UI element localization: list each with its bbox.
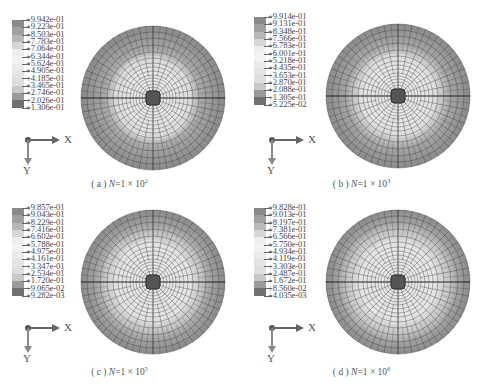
legend-tick <box>22 42 30 43</box>
legend-swatch <box>254 230 266 237</box>
contour-plot <box>318 16 478 176</box>
legend-swatch <box>12 208 24 215</box>
legend-tick <box>22 237 30 238</box>
legend-tick <box>264 46 272 47</box>
legend-tick <box>264 281 272 282</box>
legend-swatch <box>12 56 24 63</box>
legend-tick <box>264 274 272 275</box>
x-axis-label: X <box>308 321 316 333</box>
legend-tick <box>22 100 30 101</box>
legend-tick <box>22 108 30 109</box>
legend-tick <box>264 215 272 216</box>
legend-swatch <box>12 27 24 34</box>
legend-tick <box>264 24 272 25</box>
legend-tick <box>264 296 272 297</box>
legend-swatch <box>12 230 24 237</box>
legend-swatch <box>254 215 266 222</box>
legend-swatch <box>254 17 266 24</box>
legend-tick <box>264 61 272 62</box>
panel-b: +9.914e-01+9.131e-01+8.348e-01+7.566e-01… <box>242 0 478 193</box>
legend-swatch <box>254 24 266 31</box>
axis-triad: XY <box>266 322 316 362</box>
legend-swatch <box>254 288 266 295</box>
contour-plot <box>73 202 233 362</box>
axis-triad: XY <box>266 134 316 174</box>
y-axis-label: Y <box>267 164 275 176</box>
legend-swatch <box>254 259 266 266</box>
legend-tick <box>264 259 272 260</box>
legend-tick <box>22 252 30 253</box>
legend-swatch <box>12 266 24 273</box>
legend-tick <box>264 230 272 231</box>
legend-tick <box>22 93 30 94</box>
legend-swatch <box>254 39 266 46</box>
legend-swatch <box>12 281 24 288</box>
legend-swatch <box>254 208 266 215</box>
legend-labels: +9.942e-01+9.223e-01+8.503e-01+7.783e-01… <box>26 16 64 111</box>
legend-tick <box>22 78 30 79</box>
contour-plot <box>73 18 233 178</box>
axis-triad: XY <box>22 134 72 174</box>
legend-swatch <box>12 49 24 56</box>
legend-tick <box>264 223 272 224</box>
legend-tick <box>264 68 272 69</box>
legend-swatch <box>12 244 24 251</box>
legend-tick <box>22 27 30 28</box>
legend-tick <box>264 75 272 76</box>
legend-tick <box>22 64 30 65</box>
legend-tick <box>264 266 272 267</box>
x-axis-label: X <box>64 321 72 333</box>
panel-caption: ( b ) N=1 × 103 <box>242 178 478 189</box>
legend-tick <box>22 86 30 87</box>
legend-swatch <box>12 64 24 71</box>
panel-caption: ( a ) N=1 × 102 <box>0 178 239 189</box>
panel-caption: ( c ) N=1 × 105 <box>0 366 239 377</box>
legend-swatch <box>254 266 266 273</box>
y-axis-label: Y <box>267 352 275 364</box>
legend-value: +9.282e-03 <box>26 292 64 299</box>
y-axis-label: Y <box>23 164 31 176</box>
legend-tick <box>264 105 272 106</box>
legend-tick <box>264 54 272 55</box>
legend-tick <box>22 259 30 260</box>
legend-swatch <box>12 42 24 49</box>
legend-swatch <box>12 20 24 27</box>
legend-swatch <box>12 86 24 93</box>
legend-tick <box>22 20 30 21</box>
legend-swatch <box>12 71 24 78</box>
legend-swatch <box>12 274 24 281</box>
legend-tick <box>22 266 30 267</box>
y-axis-label: Y <box>23 352 31 364</box>
legend-swatch <box>254 61 266 68</box>
panel-caption: ( d ) N=1 × 106 <box>242 366 478 377</box>
legend-swatch <box>254 83 266 90</box>
legend-swatch <box>254 46 266 53</box>
legend-tick <box>22 49 30 50</box>
legend-tick <box>22 274 30 275</box>
legend-tick <box>22 208 30 209</box>
legend-labels: +9.828e-01+9.013e-01+8.197e-01+7.381e-01… <box>268 204 306 299</box>
legend-swatch <box>12 223 24 230</box>
legend-tick <box>22 281 30 282</box>
legend-tick <box>264 245 272 246</box>
legend-swatch <box>254 53 266 60</box>
legend-tick <box>264 288 272 289</box>
contour-plot <box>318 202 478 362</box>
legend-labels: +9.914e-01+9.131e-01+8.348e-01+7.566e-01… <box>268 13 306 108</box>
legend-swatch <box>254 32 266 39</box>
legend-swatch <box>254 68 266 75</box>
legend-tick <box>264 32 272 33</box>
legend-tick <box>22 230 30 231</box>
legend-tick <box>264 17 272 18</box>
legend-tick <box>22 288 30 289</box>
legend-swatch <box>254 252 266 259</box>
legend-swatch <box>12 252 24 259</box>
legend-tick <box>264 252 272 253</box>
legend-swatch <box>12 35 24 42</box>
panel-a: +9.942e-01+9.223e-01+8.503e-01+7.783e-01… <box>0 0 239 193</box>
legend-labels: +9.857e-01+9.043e-01+8.229e-01+7.416e-01… <box>26 204 64 299</box>
legend-value: +1.306e-01 <box>26 104 64 111</box>
legend-swatch <box>12 100 24 107</box>
legend-swatch <box>254 97 266 104</box>
legend-swatch <box>254 90 266 97</box>
